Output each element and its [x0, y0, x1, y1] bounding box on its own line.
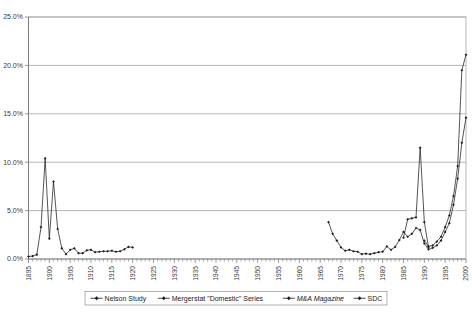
- y-tick-label-5: 5.0%: [7, 207, 23, 214]
- x-tick-label-1925: 1925: [150, 266, 157, 281]
- chart-container: 0.0%5.0%10.0%15.0%20.0%25.0% 18951900190…: [0, 0, 472, 313]
- legend-label: Mergerstat "Domestic" Series: [172, 295, 264, 303]
- x-tick-label-1980: 1980: [379, 266, 386, 281]
- y-tick-label-20: 20.0%: [3, 62, 23, 69]
- x-tick-label-1970: 1970: [337, 266, 344, 281]
- x-tick-label-1910: 1910: [87, 266, 94, 281]
- x-tick-label-1895: 1895: [25, 266, 32, 281]
- x-tick-label-1965: 1965: [317, 266, 324, 281]
- x-tick-label-1990: 1990: [421, 266, 428, 281]
- x-tick-label-1935: 1935: [192, 266, 199, 281]
- y-tick-label-0: 0.0%: [7, 255, 23, 262]
- x-tick-label-1975: 1975: [358, 266, 365, 281]
- x-tick-label-1985: 1985: [400, 266, 407, 281]
- x-tick-label-1945: 1945: [233, 266, 240, 281]
- y-tick-label-25: 25.0%: [3, 13, 23, 20]
- merger-wave-line-chart: 0.0%5.0%10.0%15.0%20.0%25.0% 18951900190…: [0, 0, 472, 313]
- x-tick-label-1960: 1960: [296, 266, 303, 281]
- x-tick-label-1900: 1900: [46, 266, 53, 281]
- legend-label: M&A Magazine: [297, 295, 344, 303]
- x-tick-label-1930: 1930: [171, 266, 178, 281]
- x-tick-label-1920: 1920: [129, 266, 136, 281]
- x-tick-label-2000: 2000: [462, 266, 469, 281]
- x-tick-label-1940: 1940: [212, 266, 219, 281]
- x-tick-label-1955: 1955: [275, 266, 282, 281]
- x-tick-label-1995: 1995: [442, 266, 449, 281]
- legend-label: Nelson Study: [105, 295, 147, 303]
- x-tick-label-1905: 1905: [67, 266, 74, 281]
- y-tick-label-10: 10.0%: [3, 159, 23, 166]
- legend-item-mergerstat-domestic-series[interactable]: Mergerstat "Domestic" Series: [158, 295, 264, 303]
- x-tick-label-1950: 1950: [254, 266, 261, 281]
- legend-label: SDC: [368, 295, 383, 302]
- y-tick-label-15: 15.0%: [3, 110, 23, 117]
- chart-legend: Nelson StudyMergerstat "Domestic" Series…: [85, 292, 387, 306]
- x-tick-label-1915: 1915: [108, 266, 115, 281]
